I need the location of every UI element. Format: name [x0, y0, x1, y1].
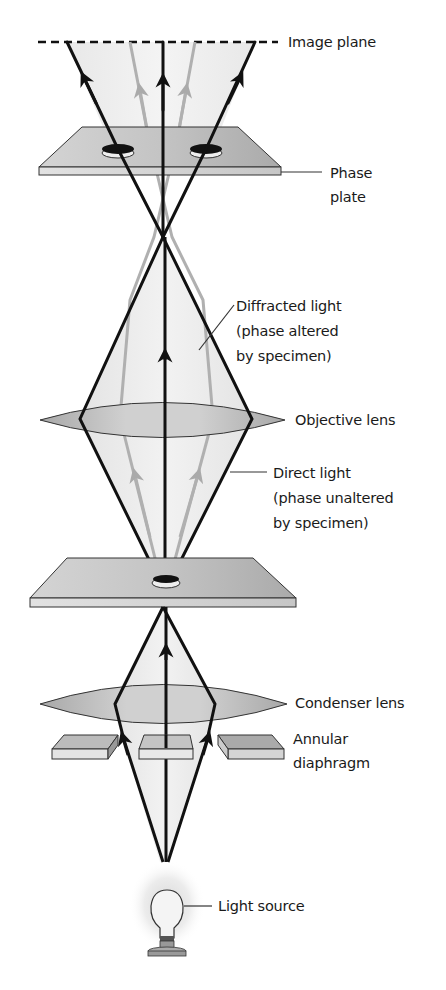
- label-objective-lens: Objective lens: [295, 411, 395, 429]
- label-line: Diffracted light: [236, 297, 342, 315]
- label-line: by specimen): [236, 347, 342, 365]
- light-cones: [67, 42, 255, 950]
- label-image-plane: Image plane: [288, 33, 376, 51]
- label-direct-light: Direct light (phase unaltered by specime…: [273, 464, 394, 532]
- label-annular-diaphragm: Annular diaphragm: [293, 730, 370, 772]
- label-line: plate: [330, 188, 372, 206]
- label-line: Direct light: [273, 464, 394, 482]
- label-line: Phase: [330, 164, 372, 182]
- label-line: diaphragm: [293, 754, 370, 772]
- label-phase-plate: Phase plate: [330, 164, 372, 206]
- label-line: by specimen): [273, 514, 394, 532]
- label-light-source: Light source: [218, 897, 305, 915]
- annular-diaphragm: [52, 735, 284, 759]
- label-diffracted-light: Diffracted light (phase altered by speci…: [236, 297, 342, 365]
- phase-plate: [39, 127, 281, 175]
- label-line: (phase altered: [236, 322, 342, 340]
- specimen-slide: [30, 558, 296, 607]
- leader-lines: [184, 172, 322, 906]
- label-line: (phase unaltered: [273, 489, 394, 507]
- label-condenser-lens: Condenser lens: [295, 694, 404, 712]
- label-line: Annular: [293, 730, 370, 748]
- objective-lens: [40, 403, 285, 438]
- condenser-lens: [40, 685, 287, 724]
